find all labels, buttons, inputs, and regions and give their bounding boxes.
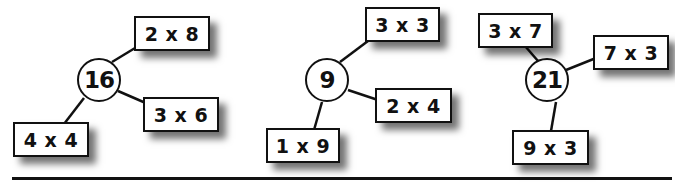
connector-line <box>566 58 596 70</box>
number-circle: 9 <box>305 58 349 102</box>
factor-pair-box: 1 x 9 <box>266 128 340 163</box>
connector-line <box>525 46 538 61</box>
factor-pair-box: 2 x 4 <box>375 88 452 123</box>
factor-pair-box: 7 x 3 <box>593 35 669 70</box>
factor-pair-box: 3 x 7 <box>478 13 553 48</box>
connector-line <box>551 102 556 131</box>
connector-line <box>348 90 378 100</box>
connector-line <box>64 98 84 124</box>
factor-pair-box: 3 x 3 <box>365 7 440 42</box>
factor-pair-box: 3 x 6 <box>143 97 219 132</box>
factor-pair-box: 4 x 4 <box>13 122 89 157</box>
factor-pair-box: 2 x 8 <box>134 16 210 51</box>
factor-pair-box: 9 x 3 <box>512 130 589 165</box>
connector-line <box>314 102 322 130</box>
baseline-divider <box>12 177 672 180</box>
number-circle: 21 <box>525 58 569 102</box>
number-circle: 16 <box>77 58 121 102</box>
